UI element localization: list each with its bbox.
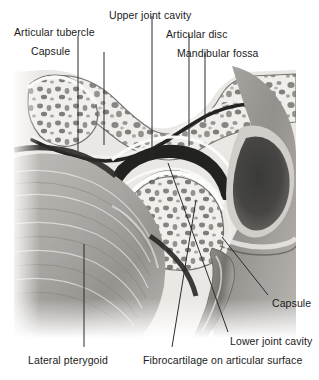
leader-lines bbox=[0, 0, 319, 380]
label-capsule-right: Capsule bbox=[272, 298, 311, 309]
tmj-anatomy-figure: Articular tubercleCapsuleUpper joint cav… bbox=[0, 0, 319, 380]
label-lower-joint-cavity: Lower joint cavity bbox=[230, 336, 312, 347]
label-articular-tubercle: Articular tubercle bbox=[14, 27, 95, 38]
label-fibrocartilage: Fibrocartilage on articular surface bbox=[143, 355, 302, 366]
label-upper-joint-cavity: Upper joint cavity bbox=[109, 10, 191, 21]
leader-fibrocartilage bbox=[172, 200, 196, 347]
label-lateral-pterygoid: Lateral pterygoid bbox=[28, 355, 108, 366]
label-mandibular-fossa: Mandibular fossa bbox=[177, 48, 259, 59]
leader-capsule-right bbox=[222, 237, 268, 295]
label-articular-disc: Articular disc bbox=[166, 29, 228, 40]
leader-lower-joint-cavity bbox=[168, 163, 228, 332]
label-capsule-left: Capsule bbox=[31, 46, 70, 57]
